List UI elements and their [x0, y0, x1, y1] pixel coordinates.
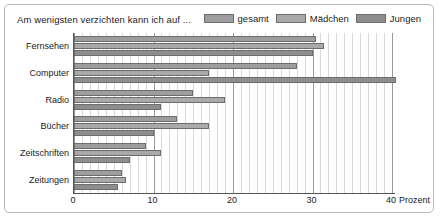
y-axis-label: Radio	[45, 95, 69, 105]
chart-header: Am wenigsten verzichten kann ich auf ...…	[5, 14, 433, 32]
bar	[74, 90, 193, 96]
legend-label-jungen: Jungen	[390, 14, 421, 24]
bar	[74, 130, 154, 136]
chart-frame: Am wenigsten verzichten kann ich auf ...…	[4, 4, 434, 213]
x-axis-tick-label: 30	[307, 195, 317, 205]
bar	[74, 63, 297, 69]
legend-swatch-jungen	[356, 14, 386, 23]
bar	[74, 97, 225, 103]
legend-item-maedchen: Mädchen	[276, 14, 349, 24]
chart-legend: gesamt Mädchen Jungen	[204, 14, 421, 24]
bar-group	[74, 140, 395, 167]
bar	[74, 50, 313, 56]
bar	[74, 184, 118, 190]
y-axis-label: Computer	[29, 68, 69, 78]
x-axis-tick-label: 0	[70, 195, 75, 205]
x-axis-tick-label: 20	[227, 195, 237, 205]
chart-title: Am wenigsten verzichten kann ich auf ...	[17, 14, 191, 25]
y-axis-labels: FernsehenComputerRadioBücherZeitschrifte…	[5, 33, 73, 193]
legend-label-gesamt: gesamt	[238, 14, 269, 24]
bar	[74, 157, 130, 163]
y-axis-label: Zeitschriften	[20, 148, 69, 158]
legend-item-gesamt: gesamt	[204, 14, 269, 24]
legend-swatch-gesamt	[204, 14, 234, 23]
legend-label-maedchen: Mädchen	[310, 14, 349, 24]
x-axis-tick-label: 40	[386, 195, 396, 205]
y-axis-label: Bücher	[40, 121, 69, 131]
y-axis-label: Zeitungen	[29, 175, 69, 185]
bar	[74, 123, 209, 129]
x-axis-line	[73, 193, 395, 194]
x-axis-tick-label: 10	[147, 195, 157, 205]
x-axis-ticks: 010203040Prozent	[5, 195, 440, 211]
y-axis-label: Fernsehen	[26, 41, 69, 51]
bar-group	[74, 86, 395, 113]
legend-swatch-maedchen	[276, 14, 306, 23]
bar	[74, 70, 209, 76]
x-axis-unit-label: Prozent	[399, 195, 430, 205]
plot-area	[73, 33, 395, 193]
bar	[74, 116, 177, 122]
bar-group	[74, 60, 395, 87]
bar	[74, 143, 146, 149]
bar	[74, 77, 396, 83]
plot-area-wrapper: FernsehenComputerRadioBücherZeitschrifte…	[5, 33, 433, 193]
bar	[74, 170, 122, 176]
bar	[74, 104, 161, 110]
bar	[74, 177, 126, 183]
bar	[74, 43, 324, 49]
legend-item-jungen: Jungen	[356, 14, 421, 24]
bar-group	[74, 33, 395, 60]
bar	[74, 36, 316, 42]
bar-group	[74, 113, 395, 140]
bar-group	[74, 166, 395, 193]
bar	[74, 150, 161, 156]
bar-groups	[74, 33, 395, 193]
